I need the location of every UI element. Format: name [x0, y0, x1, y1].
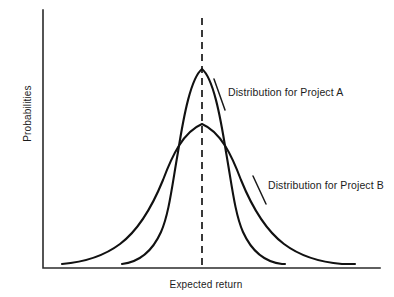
label-project-b: Distribution for Project B [268, 179, 384, 191]
leader-line-project-a [214, 79, 225, 110]
leader-line-project-b [253, 176, 266, 204]
x-axis-label: Expected return [0, 279, 394, 290]
y-axis-label: Probabilities [22, 54, 33, 174]
chart-canvas [0, 0, 394, 297]
distribution-chart-figure: Distribution for Project A Distribution … [0, 0, 394, 297]
x-axis-label-text: Expected return [170, 279, 243, 290]
curve-project-a [122, 69, 285, 264]
curve-project-b [62, 124, 355, 264]
label-project-a: Distribution for Project A [228, 86, 343, 98]
chart-axes [43, 10, 380, 268]
